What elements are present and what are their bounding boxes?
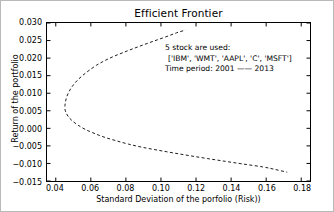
y-axis-tick-labels: −0.015−0.010−0.0050.0000.0050.0100.0150.… xyxy=(1,22,46,182)
chart-figure: Efficient Frontier −0.015−0.010−0.0050.0… xyxy=(0,0,334,212)
x-tick-label: 0.12 xyxy=(187,184,205,193)
y-tick-label: −0.010 xyxy=(2,160,46,169)
y-tick-label: 0.030 xyxy=(2,18,46,27)
x-tick-label: 0.18 xyxy=(293,184,311,193)
x-axis-label: Standard Deviation of the porfolio (Risk… xyxy=(46,195,311,204)
y-tick-label: 0.015 xyxy=(2,71,46,80)
efficient-frontier-lower-branch xyxy=(65,109,287,172)
annotation-line-time-period: Time period: 2001 —— 2013 xyxy=(165,64,292,75)
chart-title: Efficient Frontier xyxy=(46,7,311,19)
x-tick-label: 0.04 xyxy=(46,184,64,193)
x-tick-label: 0.16 xyxy=(258,184,276,193)
x-tick-label: 0.10 xyxy=(152,184,170,193)
x-tick-label: 0.06 xyxy=(81,184,99,193)
y-tick-label: 0.005 xyxy=(2,106,46,115)
annotation-line-stock-count: 5 stock are used: xyxy=(165,43,292,54)
y-tick-label: 0.010 xyxy=(2,89,46,98)
chart-annotation: 5 stock are used: ['IBM', 'WMT', 'AAPL',… xyxy=(165,43,292,75)
y-tick-label: −0.015 xyxy=(2,178,46,187)
y-axis-label: Return of the portfolio xyxy=(11,19,20,179)
annotation-line-tickers: ['IBM', 'WMT', 'AAPL', 'C', 'MSFT'] xyxy=(165,54,292,65)
x-tick-label: 0.08 xyxy=(117,184,135,193)
y-tick-label: 0.020 xyxy=(2,53,46,62)
y-tick-label: 0.000 xyxy=(2,124,46,133)
y-tick-label: −0.005 xyxy=(2,142,46,151)
y-tick-label: 0.025 xyxy=(2,35,46,44)
x-tick-label: 0.14 xyxy=(223,184,241,193)
